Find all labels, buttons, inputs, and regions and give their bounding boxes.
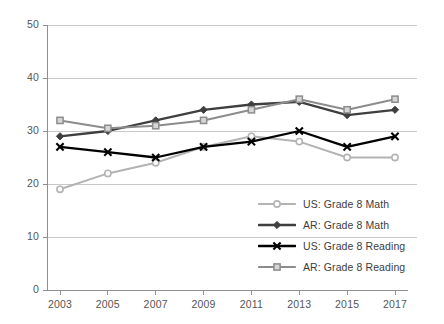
- data-point-diamond-icon: [391, 106, 398, 113]
- data-point-circle-icon: [344, 154, 350, 160]
- data-point-square-icon: [153, 123, 159, 129]
- x-axis-tick-label: 2009: [181, 298, 227, 310]
- legend-item-us-grade-8-math[interactable]: US: Grade 8 Math: [258, 193, 418, 214]
- x-axis-tick-label: 2007: [133, 298, 179, 310]
- data-point-diamond-icon: [273, 221, 280, 228]
- legend-item-us-grade-8-reading[interactable]: US: Grade 8 Reading: [258, 235, 418, 256]
- chart-legend: US: Grade 8 Math AR: Grade 8 Math US: Gr…: [258, 193, 418, 277]
- legend-item-label: US: Grade 8 Reading: [303, 240, 405, 252]
- legend-item-ar-grade-8-math[interactable]: AR: Grade 8 Math: [258, 214, 418, 235]
- legend-item-label: US: Grade 8 Math: [303, 198, 389, 210]
- data-point-circle-icon: [274, 200, 280, 206]
- x-axis-tick-label: 2011: [228, 298, 274, 310]
- legend-marker-x-icon: [258, 239, 296, 253]
- data-point-circle-icon: [296, 139, 302, 145]
- data-point-circle-icon: [392, 154, 398, 160]
- y-axis-tick-label: 30: [13, 124, 39, 136]
- x-axis-tick-label: 2003: [37, 298, 83, 310]
- data-point-square-icon: [392, 96, 398, 102]
- data-point-square-icon: [248, 107, 254, 113]
- data-point-square-icon: [57, 117, 63, 123]
- x-axis-tick-label: 2017: [372, 298, 418, 310]
- legend-item-label: AR: Grade 8 Reading: [303, 261, 405, 273]
- line-chart: 50403020100 2003200520072009201120132015…: [0, 0, 444, 324]
- legend-marker-diamond-icon: [258, 218, 296, 232]
- series-2: [56, 98, 398, 140]
- data-point-square-icon: [200, 117, 206, 123]
- data-point-square-icon: [296, 96, 302, 102]
- x-axis-tick-label: 2015: [324, 298, 370, 310]
- x-axis-tick-label: 2005: [85, 298, 131, 310]
- data-point-circle-icon: [105, 170, 111, 176]
- y-axis-tick-label: 10: [13, 230, 39, 242]
- y-axis-tick-label: 50: [13, 18, 39, 30]
- y-axis-tick-label: 0: [13, 283, 39, 295]
- data-point-diamond-icon: [56, 133, 63, 140]
- legend-item-ar-grade-8-reading[interactable]: AR: Grade 8 Reading: [258, 256, 418, 277]
- y-axis-tick-label: 40: [13, 71, 39, 83]
- data-point-circle-icon: [57, 186, 63, 192]
- y-axis-tick-label: 20: [13, 177, 39, 189]
- x-axis-tick-label: 2013: [276, 298, 322, 310]
- data-point-square-icon: [344, 107, 350, 113]
- data-point-diamond-icon: [200, 106, 207, 113]
- legend-item-label: AR: Grade 8 Math: [303, 219, 389, 231]
- data-point-square-icon: [274, 263, 280, 269]
- data-point-square-icon: [105, 125, 111, 131]
- legend-marker-square-icon: [258, 260, 296, 274]
- legend-marker-circle-icon: [258, 197, 296, 211]
